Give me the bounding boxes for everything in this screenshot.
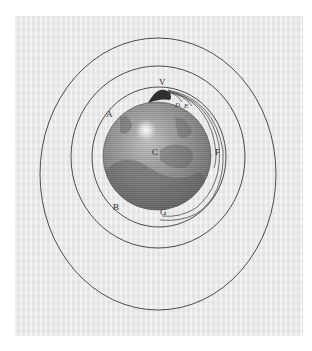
label-d: D <box>174 101 180 109</box>
label-e: E <box>183 102 189 110</box>
label-b: B <box>113 202 119 212</box>
label-g: G <box>160 207 167 217</box>
globe-highlight <box>135 119 157 141</box>
label-v: V <box>159 77 166 87</box>
label-a: A <box>106 109 113 119</box>
label-c: C <box>152 147 158 157</box>
orbit-diagram: V A B C D E F G <box>0 0 312 351</box>
earth-globe <box>103 102 211 220</box>
label-f: F <box>215 147 220 157</box>
